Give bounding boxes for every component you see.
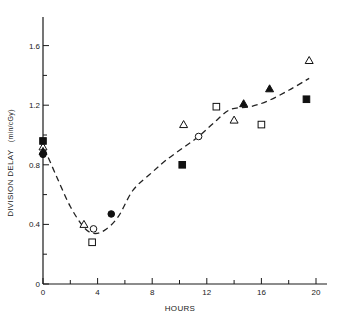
triangle-open-marker — [230, 116, 238, 123]
axes: 04812162000.40.81.21.6 — [29, 17, 327, 297]
fit-curve-path — [44, 78, 309, 233]
y-tick-label: 1.6 — [29, 42, 41, 51]
square-filled-marker — [179, 162, 186, 169]
data-points — [39, 57, 313, 246]
triangle-filled-marker — [266, 85, 274, 92]
x-axis-title: HOURS — [165, 304, 195, 313]
square-open-marker — [213, 103, 220, 110]
circle-open-marker — [90, 226, 97, 233]
y-axis-title: DIVISION DELAY (min/cGy) — [6, 109, 15, 217]
circle-filled-marker — [108, 211, 115, 218]
square-filled-marker — [303, 96, 310, 103]
fit-curve — [44, 78, 309, 233]
x-tick-label: 8 — [150, 288, 155, 297]
y-axis-title-units: (min/cGy) — [7, 109, 15, 142]
x-tick-label: 0 — [41, 288, 46, 297]
triangle-open-marker — [180, 121, 188, 128]
y-axis-title-main: DIVISION DELAY — [6, 149, 15, 217]
square-open-marker — [258, 121, 265, 128]
square-open-marker — [89, 239, 96, 246]
triangle-filled-marker — [240, 100, 248, 107]
y-tick-label: 1.2 — [29, 101, 41, 110]
y-tick-label: 0 — [36, 280, 41, 289]
circle-open-marker — [195, 133, 202, 140]
y-tick-label: 0.4 — [29, 220, 41, 229]
square-filled-marker — [40, 138, 47, 145]
x-tick-label: 16 — [257, 288, 266, 297]
y-tick-label: 0.8 — [29, 161, 41, 170]
x-tick-label: 4 — [95, 288, 100, 297]
x-tick-label: 12 — [202, 288, 211, 297]
triangle-open-marker — [305, 57, 313, 64]
division-delay-chart: 04812162000.40.81.21.6 HOURS DIVISION DE… — [0, 0, 343, 327]
x-tick-label: 20 — [312, 288, 321, 297]
circle-filled-marker — [40, 151, 47, 158]
